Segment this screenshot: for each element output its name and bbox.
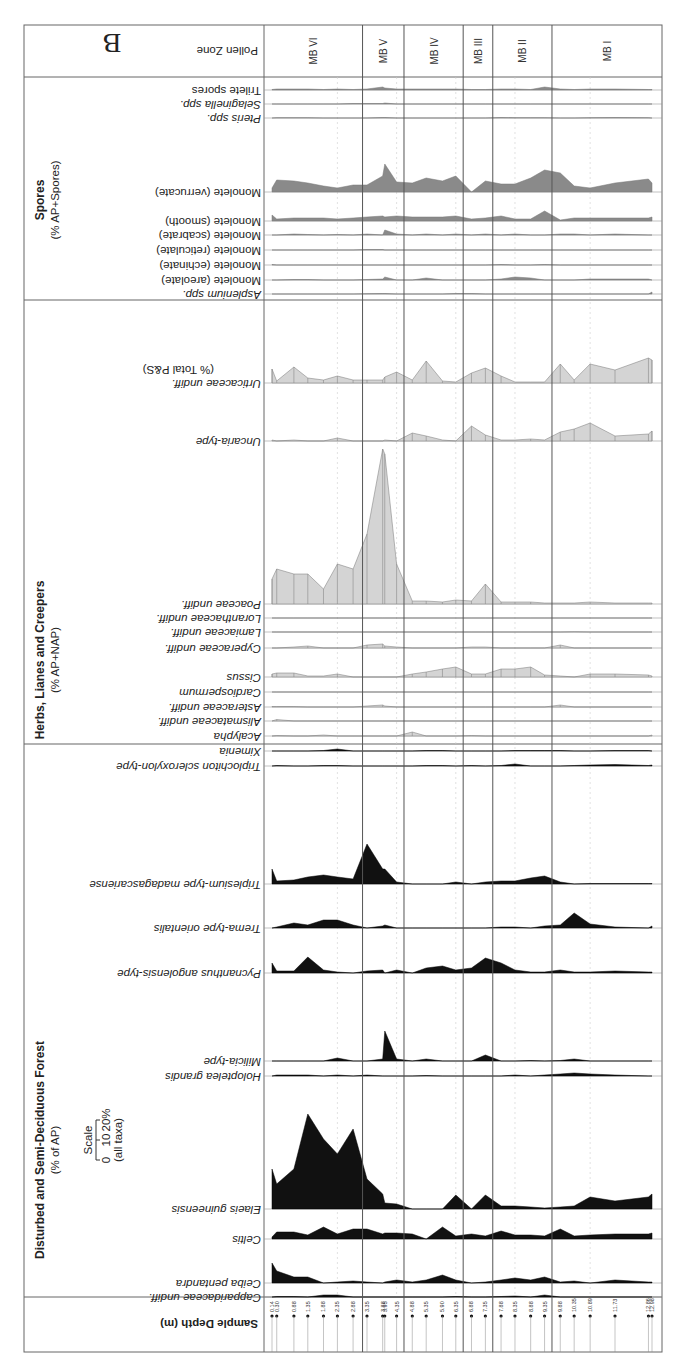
- taxon-curve: [272, 1114, 652, 1209]
- depth-label: 9.88: [557, 1301, 563, 1312]
- depth-label: 1.88: [320, 1301, 326, 1312]
- svg-text:10: 10: [100, 1134, 112, 1147]
- taxon-curve: [272, 720, 652, 722]
- zone-label: MB II: [517, 39, 528, 62]
- taxon-curve: [272, 913, 652, 928]
- group-title: Spores: [33, 179, 47, 220]
- taxon-labels: Trilete sporesSelaginella spp.Pteris spp…: [33, 85, 262, 1304]
- taxon-curve: [272, 118, 652, 119]
- taxon-curve: [272, 644, 652, 648]
- taxon-label: Asteraceae undiff.: [168, 702, 262, 714]
- depth-label: 8.35: [512, 1301, 518, 1312]
- taxon-curve: [272, 1263, 652, 1283]
- group-basis: (% of AP): [49, 1126, 61, 1175]
- depth-label: 5.90: [439, 1301, 445, 1312]
- group-basis: (% AP+Spores): [49, 160, 61, 239]
- taxon-label: Selaginella spp.: [180, 99, 261, 111]
- taxon-label: Lamiaceae undiff.: [170, 627, 261, 639]
- taxon-curve: [272, 265, 652, 266]
- taxon-label: Pycnanthus angolensis-type: [117, 968, 261, 980]
- taxon-label: Capparidaceae undiff.: [148, 1292, 261, 1304]
- taxon-curve: [272, 358, 652, 383]
- taxon-label: Ceiba pentandra: [176, 1278, 261, 1290]
- depth-label: 11.73: [612, 1299, 618, 1312]
- taxon-label: Pteris spp.: [207, 113, 261, 125]
- taxon-curve: [272, 164, 652, 192]
- svg-text:(all taxa): (all taxa): [112, 1118, 124, 1162]
- depth-label: 4.88: [409, 1301, 415, 1312]
- svg-text:20%: 20%: [100, 1108, 112, 1131]
- taxon-label: Acalypha: [214, 731, 262, 743]
- taxon-label: Ximenia: [219, 746, 262, 758]
- taxon-curve: [272, 1073, 652, 1076]
- taxon-label: Milicia-type: [203, 1056, 261, 1068]
- depth-label: 3.95: [382, 1301, 388, 1312]
- taxon-label: Monolete (smooth): [165, 216, 261, 228]
- depth-label: 8.88: [528, 1301, 534, 1312]
- depth-label: 9.35: [542, 1301, 548, 1312]
- scale-bar: Scale01020%(all taxa): [82, 1108, 124, 1163]
- sample-depth-title: Sample Depth (m): [160, 1318, 258, 1330]
- depth-label: 6.88: [468, 1301, 474, 1312]
- depth-label: 10.35: [571, 1298, 577, 1312]
- taxon-curve: [272, 957, 652, 973]
- panel-letter: B: [103, 28, 122, 59]
- taxon-label: Monolete (areolate): [161, 275, 261, 287]
- taxon-label: Alismataceae undiff.: [157, 716, 262, 728]
- taxon-curve: [272, 87, 652, 90]
- taxon-label: Cardiospermum: [179, 687, 261, 699]
- zone-label: MB IV: [429, 37, 440, 65]
- depth-label: 2.35: [334, 1301, 340, 1312]
- zone-label: MB III: [473, 38, 484, 64]
- pollen-diagram: Trilete sporesSelaginella spp.Pteris spp…: [0, 0, 675, 1366]
- depth-label: 4.35: [394, 1301, 400, 1312]
- taxon-label: Loranthaceae undiff.: [156, 613, 261, 625]
- group-title: Herbs, Lianes and Creepers: [33, 580, 47, 739]
- taxon-curve: [272, 732, 652, 736]
- taxon-curve: [272, 211, 652, 221]
- depth-label: 10.89: [587, 1298, 593, 1312]
- taxon-curve: [272, 844, 652, 884]
- group-basis: (% AP+NAP): [49, 627, 61, 693]
- taxon-curve: [272, 1031, 652, 1061]
- depth-label: 0.30: [274, 1301, 280, 1312]
- depth-label: 2.88: [350, 1301, 356, 1312]
- taxon-label: Urticaceae undiff.: [172, 378, 262, 390]
- depth-label: 1.35: [305, 1301, 311, 1312]
- taxon-label: Trema-type orientalis: [154, 923, 261, 935]
- taxon-label: Uncaria-type: [196, 436, 261, 448]
- depth-label: 3.35: [364, 1301, 370, 1312]
- taxon-label: Cissus: [226, 672, 261, 684]
- taxon-curve: [272, 277, 652, 280]
- depth-label: 6.35: [453, 1301, 459, 1312]
- zone-label: MB V: [378, 38, 389, 63]
- taxon-label: Trilete spores: [192, 85, 261, 97]
- svg-text:0: 0: [100, 1157, 112, 1163]
- taxon-label: Triplesium-type madagascariense: [89, 879, 261, 891]
- taxon-label: Celtis: [232, 1234, 261, 1246]
- depth-label: 5.35: [423, 1301, 429, 1312]
- taxon-curve: [272, 230, 652, 235]
- svg-text:Scale: Scale: [82, 1126, 94, 1155]
- depth-label: 0.88: [291, 1301, 297, 1312]
- taxon-label: Monolete (scabrate): [159, 230, 261, 242]
- taxon-curve: [272, 1227, 652, 1239]
- taxon-curve: [272, 667, 652, 677]
- pollen-zone-title: Pollen Zone: [197, 45, 258, 57]
- sample-depth-row: Sample Depth (m)0.140.300.881.351.882.35…: [160, 1298, 655, 1352]
- taxon-label: Monolete (verrucate): [155, 187, 261, 199]
- depth-label: 7.88: [498, 1301, 504, 1312]
- zone-label: MB VI: [308, 37, 319, 64]
- taxon-curve: [272, 449, 652, 604]
- taxon-label: Monolete (echinate): [159, 260, 261, 272]
- taxon-label: Asplenium spp.: [182, 289, 262, 301]
- taxon-label: Monolete (reticulate): [156, 245, 261, 257]
- taxon-label: Triplochiton scleroxylon-type: [116, 761, 261, 773]
- group-title: Disturbed and Semi-Deciduous Forest: [33, 1041, 47, 1259]
- zone-label: MB I: [602, 41, 613, 62]
- taxon-curve: [272, 103, 652, 104]
- svg-text:(% Total P&S): (% Total P&S): [142, 364, 214, 376]
- taxon-curve: [272, 764, 652, 766]
- depth-label: 7.35: [482, 1301, 488, 1312]
- taxon-label: Cyperaceae undiff.: [164, 643, 261, 655]
